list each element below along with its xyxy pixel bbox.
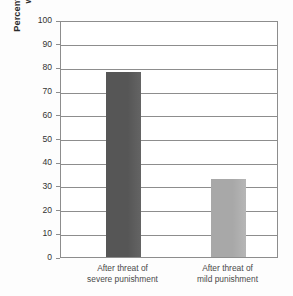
gridline bbox=[61, 69, 277, 70]
bar-chart: Percentage of children who played with t… bbox=[0, 0, 293, 296]
gridline bbox=[61, 164, 277, 165]
x-axis-category-line: mild punishment bbox=[168, 274, 288, 285]
x-axis-category-line: After threat of bbox=[63, 263, 183, 274]
x-axis-category-line: severe punishment bbox=[63, 274, 183, 285]
x-axis-category-label: After threat ofsevere punishment bbox=[63, 263, 183, 285]
y-axis-title-line-1: Percentage of children who played bbox=[12, 0, 23, 32]
y-tick-label: 40 bbox=[16, 157, 52, 167]
gridline bbox=[61, 140, 277, 141]
bar bbox=[211, 179, 246, 257]
y-axis-title: Percentage of children who played with t… bbox=[8, 0, 38, 60]
y-tick-label: 20 bbox=[16, 205, 52, 215]
x-axis-category-line: After threat of bbox=[168, 263, 288, 274]
y-tick-label: 10 bbox=[16, 228, 52, 238]
y-tick-label: 80 bbox=[16, 62, 52, 72]
y-tick-label: 70 bbox=[16, 86, 52, 96]
x-axis-category-label: After threat ofmild punishment bbox=[168, 263, 288, 285]
bar bbox=[106, 72, 141, 257]
gridline bbox=[61, 116, 277, 117]
y-tick-label: 30 bbox=[16, 181, 52, 191]
y-tick-label: 50 bbox=[16, 134, 52, 144]
y-tick-label: 0 bbox=[16, 252, 52, 262]
gridline bbox=[61, 45, 277, 46]
y-axis-title-line-2: with the forbidden toy bbox=[23, 0, 34, 4]
gridline bbox=[61, 93, 277, 94]
plot-area bbox=[60, 21, 278, 258]
y-tick-label: 60 bbox=[16, 110, 52, 120]
